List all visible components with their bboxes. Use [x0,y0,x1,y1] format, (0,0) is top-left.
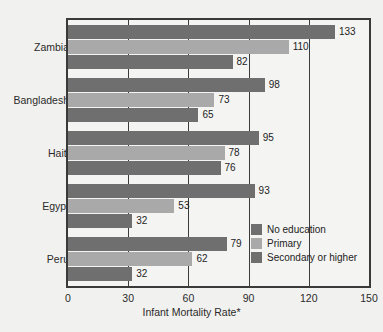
category-label-egypt: Egypt [42,200,69,212]
legend-label: Secondary or higher [267,252,357,263]
bar-row: 133 [68,25,369,39]
bar-row: 95 [68,131,369,145]
bar-row: 98 [68,78,369,92]
bar-value-label: 53 [174,201,189,211]
bar-value-label: 82 [233,57,248,67]
bar [68,199,174,213]
bar [68,25,335,39]
bar-row: 76 [68,161,369,175]
bar-row: 53 [68,199,369,213]
bar-value-label: 78 [225,148,240,158]
bar [68,108,198,122]
bar-row: 110 [68,40,369,54]
chart-legend: No education Primary Secondary or higher [251,224,357,263]
x-axis-title: Infant Mortality Rate* [0,306,383,318]
bar-value-label: 110 [289,42,309,52]
legend-label: No education [267,224,326,235]
bar-row: 78 [68,146,369,160]
legend-swatch-icon [251,252,262,263]
legend-item-primary: Primary [251,238,357,249]
bar-row: 93 [68,184,369,198]
bar [68,214,132,228]
bar-value-label: 98 [265,80,280,90]
bar [68,252,192,266]
x-tick-label: 120 [300,292,318,304]
bar-row: 65 [68,108,369,122]
bar-group: 957876 [68,126,369,179]
category-label-bangladesh: Bangladesh [14,94,69,106]
bar-value-label: 93 [255,186,270,196]
bar [68,78,265,92]
bar [68,237,227,251]
bar [68,131,259,145]
x-tick-label: 150 [360,292,378,304]
bar-value-label: 32 [132,269,147,279]
category-label-zambia: Zambia [34,41,69,53]
bar-value-label: 73 [214,95,229,105]
bar-group: 987365 [68,73,369,126]
legend-swatch-icon [251,224,262,235]
bar [68,184,255,198]
bar-value-label: 76 [221,163,236,173]
bar-group: 13311082 [68,20,369,73]
legend-swatch-icon [251,238,262,249]
legend-item-secondary-or-higher: Secondary or higher [251,252,357,263]
bar-value-label: 32 [132,216,147,226]
bar-value-label: 65 [198,110,213,120]
bar-row: 73 [68,93,369,107]
chart-container: ZambiaBangladeshHaitiEgyptPeru 133110829… [0,0,383,332]
bar-value-label: 133 [335,27,356,37]
bar [68,93,214,107]
bar-value-label: 95 [259,133,274,143]
x-tick-label: 30 [122,292,134,304]
legend-item-no-education: No education [251,224,357,235]
bar [68,55,233,69]
bar-value-label: 79 [227,239,242,249]
bar [68,146,225,160]
bar-row: 32 [68,267,369,281]
bar-row: 82 [68,55,369,69]
x-tick-label: 0 [65,292,71,304]
bar-value-label: 62 [192,254,207,264]
bar [68,161,221,175]
bar [68,40,289,54]
x-tick-label: 90 [243,292,255,304]
bar [68,267,132,281]
x-tick-label: 60 [183,292,195,304]
legend-label: Primary [267,238,301,249]
